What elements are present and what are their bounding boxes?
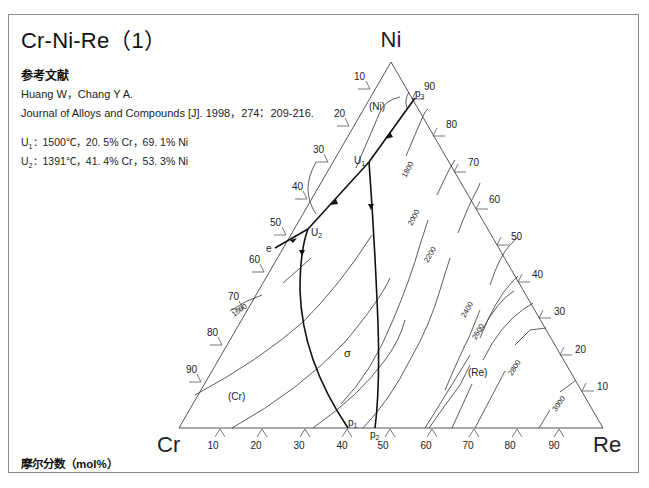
- point-u2-label: U2: [311, 227, 322, 239]
- point-u1-label: U1: [354, 155, 365, 167]
- svg-text:3000: 3000: [550, 394, 567, 413]
- svg-text:40: 40: [336, 440, 348, 451]
- univariant-lines: [275, 98, 415, 428]
- svg-text:70: 70: [462, 440, 474, 451]
- point-p2-label: p2: [370, 429, 380, 441]
- arrow-icon: [299, 250, 305, 256]
- svg-text:80: 80: [446, 119, 458, 130]
- svg-text:70: 70: [468, 157, 480, 168]
- vertex-cr-label: Cr: [157, 432, 180, 457]
- svg-text:10: 10: [597, 381, 609, 392]
- right-axis-labels: 90 80 70 60 50 40 30 20 10: [424, 81, 609, 392]
- bottom-axis-ticks: [215, 429, 564, 437]
- arrow-icon: [368, 204, 374, 210]
- svg-text:50: 50: [377, 440, 389, 451]
- svg-text:2400: 2400: [459, 300, 475, 319]
- svg-text:2800: 2800: [506, 358, 522, 377]
- svg-text:(Re): (Re): [468, 367, 487, 378]
- svg-text:20: 20: [250, 440, 262, 451]
- svg-text:10: 10: [354, 71, 366, 82]
- svg-text:70: 70: [228, 291, 240, 302]
- svg-text:80: 80: [504, 440, 516, 451]
- svg-text:60: 60: [489, 194, 501, 205]
- left-axis-labels: 10 20 30 40 50 60 70 80 90: [186, 71, 366, 375]
- svg-text:10: 10: [207, 440, 219, 451]
- svg-text:90: 90: [186, 364, 198, 375]
- isotherm-labels: 1600 1800 2000 2200 2400 2600 2800 3000: [230, 160, 567, 413]
- svg-text:80: 80: [207, 327, 219, 338]
- svg-text:90: 90: [548, 440, 560, 451]
- right-axis-ticks: [412, 91, 594, 391]
- svg-text:60: 60: [249, 254, 261, 265]
- svg-text:(Ni): (Ni): [369, 101, 385, 112]
- svg-text:20: 20: [334, 108, 346, 119]
- svg-text:2000: 2000: [406, 208, 422, 227]
- bottom-axis-labels: 10 20 30 40 50 60 70 80 90: [207, 440, 560, 451]
- svg-text:2200: 2200: [422, 245, 438, 264]
- svg-text:30: 30: [293, 440, 305, 451]
- svg-text:30: 30: [554, 306, 566, 317]
- svg-text:1600: 1600: [230, 302, 249, 319]
- point-e-label: e: [266, 243, 272, 254]
- svg-text:(Cr): (Cr): [228, 391, 245, 402]
- vertex-ni-label: Ni: [381, 27, 402, 52]
- svg-text:2600: 2600: [470, 322, 486, 341]
- svg-text:90: 90: [424, 81, 436, 92]
- ternary-triangle: [179, 62, 603, 428]
- svg-text:40: 40: [292, 181, 304, 192]
- svg-text:30: 30: [313, 144, 325, 155]
- svg-text:50: 50: [270, 217, 282, 228]
- svg-text:60: 60: [420, 440, 432, 451]
- svg-text:20: 20: [575, 344, 587, 355]
- svg-text:1800: 1800: [400, 160, 416, 179]
- svg-text:50: 50: [511, 231, 523, 242]
- svg-text:σ: σ: [344, 347, 351, 359]
- svg-text:40: 40: [532, 269, 544, 280]
- ternary-diagram: Ni Cr Re 10 20 30 40 50 60 70 80 90 9: [0, 0, 649, 488]
- point-p1-label: p1: [348, 417, 358, 429]
- vertex-re-label: Re: [593, 432, 621, 457]
